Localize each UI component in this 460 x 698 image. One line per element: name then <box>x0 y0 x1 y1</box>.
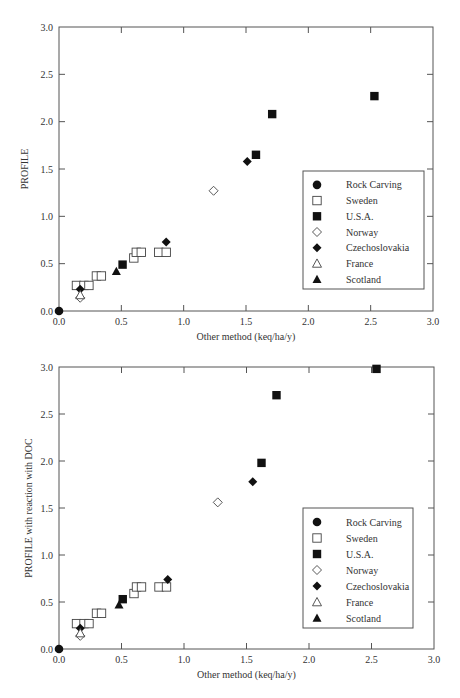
y-tick-label: 3.0 <box>41 22 54 33</box>
x-tick-label: 1.5 <box>240 654 253 665</box>
legend-label: Scotland <box>346 274 381 285</box>
y-axis-label: PROFILE with reaction with DOC <box>23 438 34 578</box>
x-axis-label: Other method (keq/ha/y) <box>197 331 296 343</box>
series-norway <box>76 498 223 640</box>
legend-marker-icon <box>313 550 321 558</box>
data-point <box>370 92 378 100</box>
y-tick-label: 1.5 <box>41 164 54 175</box>
y-tick-label: 2.5 <box>41 409 54 420</box>
y-tick-label: 1.0 <box>41 211 54 222</box>
scatter-plot-profile: 0.00.51.01.52.02.53.0Other method (keq/h… <box>0 0 460 345</box>
x-axis-label: Other method (keq/ha/y) <box>197 669 296 681</box>
legend-marker-icon <box>313 212 321 220</box>
data-point <box>213 498 222 507</box>
data-point <box>272 391 280 399</box>
y-tick-label: 0.0 <box>41 644 54 655</box>
x-tick-label: 3.0 <box>427 316 440 327</box>
y-tick-label: 0.0 <box>41 306 54 317</box>
legend-marker-icon <box>313 181 322 190</box>
data-point <box>268 110 276 118</box>
data-point <box>137 248 145 256</box>
y-tick-label: 1.0 <box>41 550 54 561</box>
legend-label: Norway <box>346 565 378 576</box>
scatter-plot-profile-doc: 0.00.51.01.52.02.53.0Other method (keq/h… <box>0 345 460 698</box>
x-tick-label: 1.0 <box>178 654 191 665</box>
data-point <box>55 307 64 316</box>
legend: Rock CarvingSwedenU.S.A.NorwayCzechoslov… <box>303 171 424 289</box>
legend-label: Czechoslovakia <box>346 581 410 592</box>
y-tick-label: 2.5 <box>41 69 54 80</box>
legend-label: Scotland <box>346 613 381 624</box>
legend-label: Rock Carving <box>346 179 402 190</box>
legend-marker-icon <box>313 196 321 204</box>
legend-label: France <box>346 258 374 269</box>
data-point <box>162 248 170 256</box>
y-tick-label: 0.5 <box>41 258 54 269</box>
data-point <box>209 186 218 195</box>
series-france <box>76 629 85 637</box>
data-point <box>76 629 85 637</box>
data-point <box>162 237 171 246</box>
x-tick-label: 3.0 <box>428 654 441 665</box>
x-tick-label: 2.5 <box>365 654 378 665</box>
y-tick-label: 1.5 <box>41 503 54 514</box>
data-point <box>85 619 93 627</box>
legend-label: Norway <box>346 227 378 238</box>
y-tick-label: 2.0 <box>41 116 54 127</box>
x-tick-label: 0.5 <box>115 316 128 327</box>
data-point <box>243 157 252 166</box>
data-point <box>85 281 93 289</box>
data-point <box>248 477 257 486</box>
data-point <box>162 583 170 591</box>
data-point <box>137 583 145 591</box>
data-point <box>97 272 105 280</box>
data-point <box>76 290 85 298</box>
series-rock-carving <box>55 645 64 654</box>
x-tick-label: 2.0 <box>303 654 316 665</box>
x-tick-label: 0.0 <box>53 654 66 665</box>
y-tick-label: 0.5 <box>41 597 54 608</box>
data-point <box>252 151 260 159</box>
series-sweden <box>72 248 170 290</box>
x-tick-label: 2.5 <box>364 316 377 327</box>
x-tick-label: 0.5 <box>115 654 128 665</box>
legend-label: France <box>346 597 374 608</box>
legend-label: Sweden <box>346 533 378 544</box>
data-point <box>118 260 126 268</box>
data-point <box>372 365 380 373</box>
legend-label: U.S.A. <box>346 211 374 222</box>
legend-marker-icon <box>313 534 321 542</box>
data-point <box>55 645 64 654</box>
x-tick-label: 1.5 <box>240 316 253 327</box>
legend-marker-icon <box>313 518 322 527</box>
series-norway <box>76 186 218 302</box>
legend-label: Czechoslovakia <box>346 242 410 253</box>
series-rock-carving <box>55 307 64 316</box>
legend-label: U.S.A. <box>346 549 374 560</box>
legend-label: Sweden <box>346 195 378 206</box>
legend-label: Rock Carving <box>346 517 402 528</box>
series-france <box>76 290 85 298</box>
data-point <box>97 609 105 617</box>
x-tick-label: 2.0 <box>302 316 315 327</box>
x-tick-label: 0.0 <box>53 316 66 327</box>
chart-profile-doc: 0.00.51.01.52.02.53.0Other method (keq/h… <box>0 345 460 698</box>
y-axis-label: PROFILE <box>19 149 30 190</box>
y-tick-label: 3.0 <box>41 362 54 373</box>
chart-profile: 0.00.51.01.52.02.53.0Other method (keq/h… <box>0 0 460 345</box>
data-point <box>257 459 265 467</box>
y-tick-label: 2.0 <box>41 456 54 467</box>
x-tick-label: 1.0 <box>177 316 190 327</box>
legend: Rock CarvingSwedenU.S.A.NorwayCzechoslov… <box>303 508 413 628</box>
